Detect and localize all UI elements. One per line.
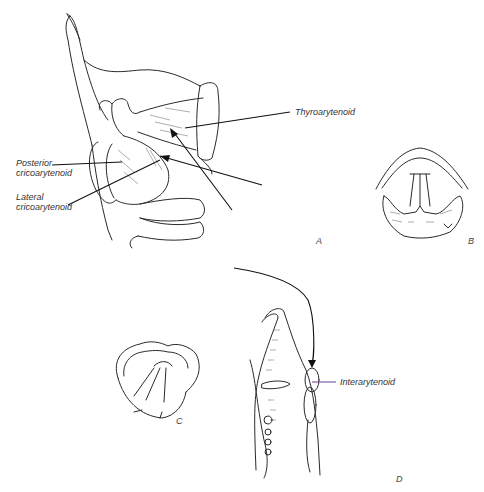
- label-lateral-cricoarytenoid: Lateral cricoarytenoid: [16, 192, 72, 212]
- panel-label-c: C: [176, 416, 183, 426]
- anatomical-illustration: [0, 0, 484, 492]
- panel-a-drawing: [52, 14, 290, 248]
- label-posterior-line2: cricoarytenoid: [16, 168, 72, 178]
- panel-label-d: D: [396, 474, 403, 484]
- label-thyroarytenoid: Thyroarytenoid: [295, 107, 355, 117]
- label-lateral-line2: cricoarytenoid: [16, 202, 72, 212]
- label-posterior-line1: Posterior: [16, 158, 72, 168]
- panel-c-drawing: [116, 342, 199, 418]
- panel-label-a: A: [316, 236, 322, 246]
- panel-label-b: B: [468, 236, 474, 246]
- panel-d-drawing: [234, 268, 336, 478]
- panel-b-drawing: [376, 148, 468, 238]
- label-interarytenoid: Interarytenoid: [340, 377, 395, 387]
- label-lateral-line1: Lateral: [16, 192, 72, 202]
- label-posterior-cricoarytenoid: Posterior cricoarytenoid: [16, 158, 72, 178]
